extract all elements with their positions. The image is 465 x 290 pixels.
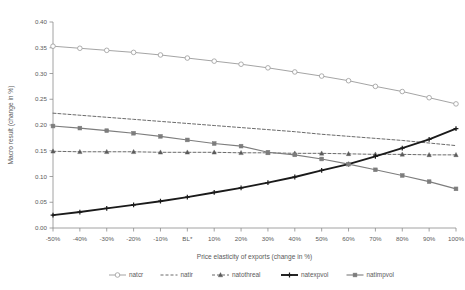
data-point-marker <box>212 142 216 146</box>
x-tick-label: 30% <box>262 235 275 242</box>
data-point-marker <box>293 153 297 157</box>
chart-legend: natcrnatirnatothrealnatexpvolnatimpvol <box>109 271 394 279</box>
data-point-marker <box>132 131 136 135</box>
data-point-marker <box>131 202 136 207</box>
chart-figure: 0.000.050.100.150.200.250.300.350.40-50%… <box>0 0 465 290</box>
data-point-marker <box>158 53 163 58</box>
series-line <box>53 113 456 145</box>
y-tick-label: 0.10 <box>35 173 48 180</box>
series-natir <box>53 113 456 145</box>
data-point-marker <box>374 168 378 172</box>
data-point-marker <box>212 59 217 64</box>
legend-label: natimpvol <box>367 271 394 279</box>
legend-item-natcr[interactable]: natcr <box>109 271 144 278</box>
x-tick-label: -50% <box>46 235 61 242</box>
data-point-marker <box>346 78 351 83</box>
data-point-marker <box>104 206 109 211</box>
x-axis-title: Price elasticity of exports (change in %… <box>197 253 312 261</box>
data-point-marker <box>212 190 217 195</box>
data-point-marker <box>400 146 405 151</box>
data-point-marker <box>353 273 357 277</box>
data-point-marker <box>78 46 83 51</box>
legend-label: natexpvol <box>301 271 328 279</box>
x-tick-label: 90% <box>423 235 436 242</box>
data-point-marker <box>454 187 458 191</box>
y-tick-label: 0.20 <box>35 121 48 128</box>
data-point-marker <box>51 213 56 218</box>
legend-item-natimpvol[interactable]: natimpvol <box>347 271 394 279</box>
data-point-marker <box>319 74 324 79</box>
legend-label: natcr <box>129 271 144 278</box>
data-point-marker <box>78 126 82 130</box>
data-point-marker <box>158 199 163 204</box>
data-point-marker <box>400 89 405 94</box>
data-point-marker <box>51 124 55 128</box>
data-point-marker <box>239 62 244 67</box>
legend-label: natir <box>181 271 194 278</box>
series-line <box>53 129 456 216</box>
data-point-marker <box>266 180 271 185</box>
data-point-marker <box>287 273 292 278</box>
data-point-marker <box>347 162 351 166</box>
legend-item-natir[interactable]: natir <box>161 271 194 278</box>
y-axis-title: Macro result (change in %) <box>7 86 15 165</box>
x-tick-label: -30% <box>100 235 115 242</box>
data-point-marker <box>266 66 271 71</box>
y-tick-label: 0.15 <box>35 147 48 154</box>
y-tick-label: 0.30 <box>35 70 48 77</box>
y-tick-label: 0.40 <box>35 18 48 25</box>
data-point-marker <box>427 95 432 100</box>
data-point-marker <box>239 185 244 190</box>
x-tick-label: -10% <box>153 235 168 242</box>
x-tick-label: 50% <box>315 235 328 242</box>
data-point-marker <box>373 84 378 89</box>
series-natcr <box>51 44 459 106</box>
data-point-marker <box>400 174 404 178</box>
legend-label: natothreal <box>232 271 260 278</box>
data-point-marker <box>454 102 459 107</box>
data-point-marker <box>105 129 109 133</box>
y-tick-label: 0.25 <box>35 95 48 102</box>
x-tick-label: 70% <box>369 235 382 242</box>
x-tick-label: -40% <box>73 235 88 242</box>
x-tick-label: -20% <box>126 235 141 242</box>
data-point-marker <box>320 157 324 161</box>
x-tick-label: 100% <box>448 235 464 242</box>
x-tick-label: 60% <box>342 235 355 242</box>
x-tick-label: BL* <box>182 235 193 242</box>
data-point-marker <box>51 44 56 49</box>
data-point-marker <box>115 273 120 278</box>
x-tick-label: 80% <box>396 235 409 242</box>
y-tick-label: 0.00 <box>35 224 48 231</box>
y-tick-label: 0.35 <box>35 44 48 51</box>
data-point-marker <box>185 195 190 200</box>
data-point-marker <box>319 168 324 173</box>
data-point-marker <box>131 50 136 55</box>
x-tick-label: 20% <box>235 235 248 242</box>
data-point-marker <box>159 134 163 138</box>
data-point-marker <box>292 175 297 180</box>
series-line <box>53 126 456 189</box>
data-point-marker <box>266 150 270 154</box>
series-line <box>53 46 456 104</box>
data-point-marker <box>185 56 190 61</box>
data-point-marker <box>427 180 431 184</box>
y-tick-label: 0.05 <box>35 198 48 205</box>
legend-item-natexpvol[interactable]: natexpvol <box>281 271 328 279</box>
legend-item-natothreal[interactable]: natothreal <box>212 271 260 278</box>
data-point-marker <box>239 144 243 148</box>
data-point-marker <box>185 138 189 142</box>
x-tick-label: 40% <box>289 235 302 242</box>
series-line <box>53 151 456 155</box>
x-tick-label: 10% <box>208 235 221 242</box>
data-point-marker <box>77 210 82 215</box>
data-point-marker <box>293 70 298 75</box>
data-point-marker <box>104 48 109 53</box>
series-natimpvol <box>51 124 458 191</box>
line-chart: 0.000.050.100.150.200.250.300.350.40-50%… <box>0 0 465 290</box>
